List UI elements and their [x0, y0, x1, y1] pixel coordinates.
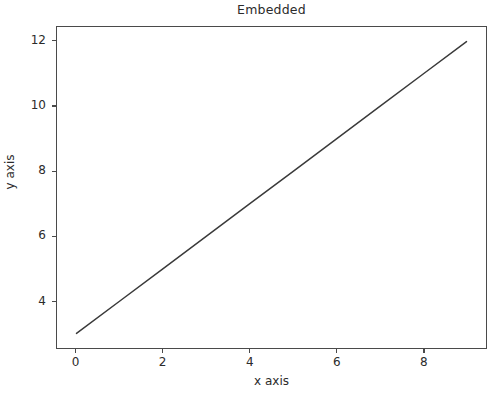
- y-tick-label: 12: [6, 33, 46, 47]
- x-tick-label: 2: [143, 355, 183, 369]
- x-tick-mark: [336, 349, 337, 353]
- line-series-0: [76, 42, 466, 334]
- x-tick-label: 8: [404, 355, 444, 369]
- x-tick-mark: [423, 349, 424, 353]
- y-tick-mark: [52, 171, 56, 172]
- line-series-canvas: [57, 27, 486, 348]
- x-tick-label: 0: [56, 355, 96, 369]
- y-tick-mark: [52, 301, 56, 302]
- y-axis-label: y axis: [3, 112, 17, 232]
- plot-area: [56, 26, 487, 349]
- x-tick-mark: [162, 349, 163, 353]
- y-tick-mark: [52, 105, 56, 106]
- x-tick-label: 6: [317, 355, 357, 369]
- y-tick-mark: [52, 236, 56, 237]
- x-axis-label: x axis: [56, 374, 487, 388]
- y-tick-mark: [52, 40, 56, 41]
- x-tick-mark: [75, 349, 76, 353]
- x-tick-label: 4: [230, 355, 270, 369]
- y-tick-label: 4: [6, 294, 46, 308]
- x-tick-mark: [249, 349, 250, 353]
- y-tick-label: 10: [6, 98, 46, 112]
- matplotlib-figure: Embedded 02468 4681012 x axis y axis: [0, 0, 497, 400]
- chart-title: Embedded: [56, 2, 487, 17]
